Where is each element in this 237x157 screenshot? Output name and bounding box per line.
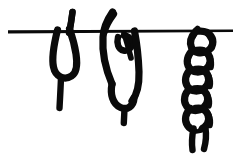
chain-tail-right [204,128,206,149]
stage-1-tail-over-bar [70,12,73,31]
stage-2-working-end [124,109,125,123]
illustration-canvas [0,0,237,157]
chain-tail-left [192,129,194,151]
stage-1-lower-tail [60,78,62,108]
canvas-background [0,0,237,157]
knot-illustration: Chain sinnet tied on a horizontal bar Li… [0,0,237,157]
chain-link-5-gap [195,122,201,125]
stage-3-strand-over-bar [194,29,198,37]
